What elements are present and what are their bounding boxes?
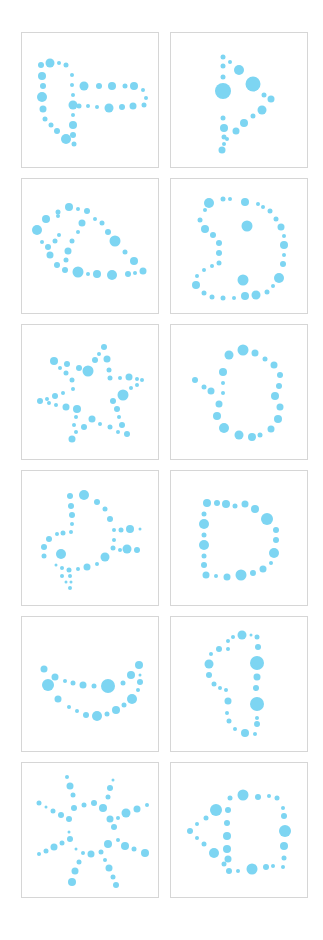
dotted-starburst-icon	[22, 763, 158, 897]
panel-8-letter-d-shape	[170, 470, 308, 606]
dotted-letter-d-icon	[171, 471, 307, 605]
dotted-star-icon	[22, 325, 158, 459]
panel-9-crescent-shape	[21, 616, 159, 752]
dotted-flag-icon	[22, 33, 158, 167]
panel-3-teardrop-shape	[21, 178, 159, 314]
panel-7-bird-shape	[21, 470, 159, 606]
dotted-bird-icon	[22, 471, 158, 605]
panel-1-flag-shape	[21, 32, 159, 168]
dotted-b-curve-icon	[171, 179, 307, 313]
panel-11-starburst-shape	[21, 762, 159, 898]
dotted-triangle-icon	[171, 33, 307, 167]
dotted-square-triangle-icon	[171, 763, 307, 897]
panel-5-star-shape	[21, 324, 159, 460]
panel-10-half-oval-shape	[170, 616, 308, 752]
panel-6-fish-shape	[170, 324, 308, 460]
panel-4-b-curve-shape	[170, 178, 308, 314]
panel-12-square-triangle-shape	[170, 762, 308, 898]
panel-2-triangle-shape	[170, 32, 308, 168]
dotted-fish-icon	[171, 325, 307, 459]
dotted-half-oval-icon	[171, 617, 307, 751]
dotted-teardrop-icon	[22, 179, 158, 313]
dotted-crescent-icon	[22, 617, 158, 751]
